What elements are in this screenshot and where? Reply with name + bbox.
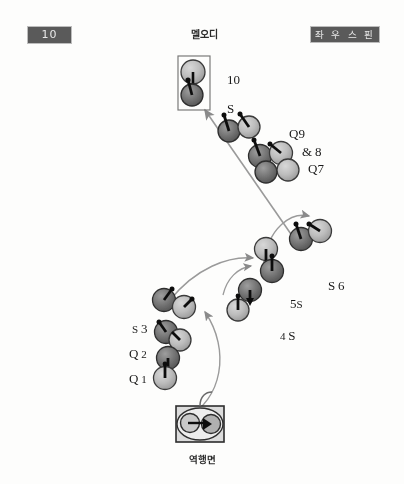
step-label-10s: 10 S (211, 58, 240, 130)
start-position-label: 역행면 (150, 452, 254, 466)
start-icon (176, 392, 224, 442)
arrow-start-to-step3 (186, 312, 220, 418)
step-group-s6 (290, 220, 332, 251)
step-group-4s (227, 279, 262, 322)
step-label-s6: S 6 (312, 258, 344, 312)
diagram-canvas (0, 0, 404, 484)
step-group-s3 (153, 287, 196, 319)
step-label-s3: S 3 (116, 301, 147, 355)
step-label-q9: Q9 (273, 106, 305, 160)
step-label-5s: 5S (274, 276, 303, 330)
step-group-10s (178, 56, 210, 110)
diagram-page: 10 멜오디 좌 우 스 핀 (0, 0, 404, 484)
step-group-q1 (154, 347, 180, 390)
step-group-q2 (155, 320, 192, 352)
